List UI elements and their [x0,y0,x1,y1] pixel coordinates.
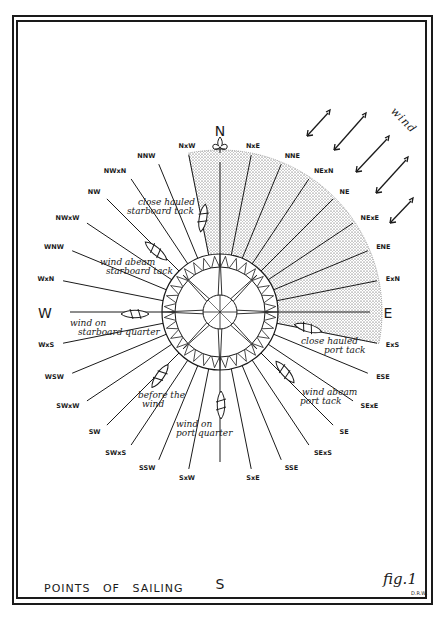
compass-point-label: NNW [137,152,155,160]
compass-point-label: SExS [314,449,332,457]
compass-point-label: SWxS [105,449,126,457]
annotation-wind-port-quarter: wind on port quarter [176,419,233,438]
wind-arrow-icon [390,198,413,223]
cardinal-e: E [384,305,393,321]
compass-point-label: WxN [37,275,54,283]
annotation-wind-abeam-starboard: wind abeam starboard tack [100,257,173,276]
compass-point-label: SSE [285,464,299,472]
boat-icon [148,362,172,391]
compass-point-label: SxW [179,474,195,482]
compass-point-label: NE [340,188,350,196]
compass-point-label: ExN [386,275,400,283]
annotation-wind-abeam-port: wind abeam port tack [300,387,357,406]
wind-arrow-icon [376,157,408,193]
annotation-close-hauled-port: close hauled port tack [301,336,365,355]
compass-point-label: ESE [376,373,390,381]
svg-text:wind: wind [142,399,164,409]
compass-point-label: NNE [285,152,300,160]
compass-point-label: SW [89,428,101,436]
svg-text:starboard tack: starboard tack [127,206,194,216]
figure-number: fig.1 [383,570,417,588]
svg-text:port quarter: port quarter [176,428,233,438]
compass-point-label: NWxW [55,214,79,222]
annotation-before-the-wind: before the wind [138,390,185,409]
compass-point-label: NxW [179,142,196,150]
svg-text:starboard tack: starboard tack [106,266,173,276]
figure-title: POINTS OF SAILING [44,582,184,595]
compass-point-label: NW [88,188,101,196]
artist-initials: D.R.W. [411,590,427,596]
compass-point-label: NWxN [104,167,126,175]
boat-icon [121,309,149,319]
annotation-wind-starboard-quarter: wind on starboard quarter [70,318,161,337]
boat-icon [272,358,298,386]
compass-point-label: WNW [44,243,64,251]
compass-point-label: SWxW [56,402,79,410]
compass-point-label: NExN [314,167,334,175]
compass-point-label: NExE [361,214,380,222]
compass-point-label: SxE [246,474,259,482]
compass-point-label: NxE [246,142,260,150]
points-of-sailing-figure: NxWNxENNENExNNENExEENEExNExSESESExESESEx… [0,0,440,621]
svg-text:starboard quarter: starboard quarter [78,327,161,337]
compass-point-label: SE [340,428,349,436]
cardinal-n: N [215,123,225,139]
wind-arrow-icon [307,110,330,136]
wind-arrow-icon [334,113,366,150]
compass-point-label: ENE [376,243,390,251]
compass-point-label: WSW [45,373,64,381]
compass-point-label: WxS [38,341,54,349]
compass-diagram: NxWNxENNENExNNENExEENEExNExSESESExESESEx… [0,0,440,621]
compass-point-label: SSW [139,464,155,472]
annotation-close-hauled-starboard: close hauled starboard tack [127,197,195,216]
svg-text:port tack: port tack [324,345,365,355]
wind-arrow-icon [356,136,389,172]
cardinal-w: W [38,305,52,321]
compass-point-label: ExS [386,341,400,349]
compass-point-label: SExE [361,402,379,410]
compass-rose [162,254,278,370]
wind-label: wind [388,105,419,136]
boat-icon [216,391,226,419]
svg-text:port tack: port tack [300,396,341,406]
cardinal-s: S [216,576,225,592]
